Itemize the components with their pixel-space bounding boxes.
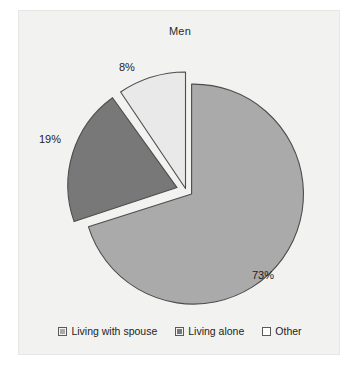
legend-item-living-with-spouse[interactable]: Living with spouse bbox=[58, 325, 157, 337]
legend-swatch-icon-living-alone bbox=[175, 327, 184, 336]
legend-label-living-with-spouse: Living with spouse bbox=[71, 325, 157, 337]
legend-swatch-icon-living-with-spouse bbox=[58, 327, 67, 336]
pie-label-living-alone-percent: 19% bbox=[39, 133, 61, 145]
legend-item-living-alone[interactable]: Living alone bbox=[175, 325, 244, 337]
legend-label-living-alone: Living alone bbox=[188, 325, 244, 337]
chart-figure: Men 8% 19% 73% Living with spouse Living… bbox=[18, 10, 340, 355]
legend-label-other: Other bbox=[275, 325, 301, 337]
legend-item-other[interactable]: Other bbox=[262, 325, 301, 337]
pie-label-living-with-spouse-percent: 73% bbox=[252, 269, 274, 281]
legend-swatch-icon-other bbox=[262, 327, 271, 336]
pie-chart: 8% 19% 73% bbox=[19, 11, 340, 311]
chart-legend: Living with spouse Living alone Other bbox=[19, 325, 340, 337]
pie-svg bbox=[19, 11, 340, 311]
pie-label-other-percent: 8% bbox=[119, 61, 135, 73]
